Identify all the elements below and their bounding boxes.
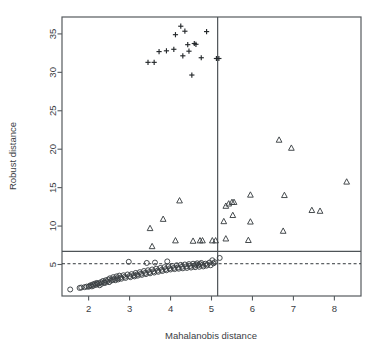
series-moderate-outliers: [147, 137, 349, 249]
data-point-circle: [68, 287, 73, 292]
x-axis-title: Mahalanobis distance: [165, 330, 257, 341]
data-point-triangle: [248, 192, 254, 197]
data-point-triangle: [317, 208, 323, 213]
data-point-triangle: [177, 198, 183, 203]
data-point-triangle: [344, 179, 350, 184]
data-point-triangle: [246, 237, 252, 242]
reference-lines: [62, 17, 361, 296]
distance-distance-plot: 2345678 5101520253035 Mahalanobis distan…: [0, 0, 380, 349]
data-point-triangle: [190, 238, 196, 243]
y-tick-label: 10: [48, 221, 59, 232]
data-point-triangle: [289, 145, 295, 150]
data-point-triangle: [173, 238, 179, 243]
data-point-circle: [165, 259, 170, 264]
y-tick-label: 20: [48, 144, 59, 155]
series-extreme-outliers: [145, 24, 221, 78]
x-tick-label: 7: [291, 303, 296, 314]
x-tick-label: 5: [209, 303, 214, 314]
series-regular-observations: [68, 255, 223, 292]
y-axis-title: Robust distance: [7, 122, 18, 190]
x-tick-label: 3: [127, 303, 132, 314]
plot-canvas: 2345678 5101520253035 Mahalanobis distan…: [0, 0, 380, 349]
data-point-triangle: [223, 236, 229, 241]
plot-frame: [62, 17, 361, 296]
y-tick-label: 25: [48, 105, 59, 116]
data-point-triangle: [309, 207, 315, 212]
x-tick-label: 4: [168, 303, 173, 314]
y-tick-label: 15: [48, 182, 59, 193]
y-tick-label: 5: [48, 262, 59, 267]
data-point-circle: [144, 260, 149, 265]
x-tick-label: 6: [250, 303, 255, 314]
data-point-triangle: [147, 225, 153, 230]
data-point-triangle: [230, 212, 236, 217]
data-point-circle: [152, 260, 157, 265]
data-point-triangle: [221, 218, 227, 223]
y-tick-label: 35: [48, 29, 59, 40]
data-point-triangle: [248, 219, 254, 224]
data-point-triangle: [276, 137, 282, 142]
x-tick-label: 8: [332, 303, 337, 314]
data-point-triangle: [282, 192, 288, 197]
y-axis-ticks: 5101520253035: [48, 29, 63, 268]
x-axis-ticks: 2345678: [86, 296, 337, 314]
x-tick-label: 2: [86, 303, 91, 314]
data-point-triangle: [149, 243, 155, 248]
data-point-triangle: [160, 216, 166, 221]
data-point-triangle: [280, 228, 286, 233]
y-tick-label: 30: [48, 67, 59, 78]
